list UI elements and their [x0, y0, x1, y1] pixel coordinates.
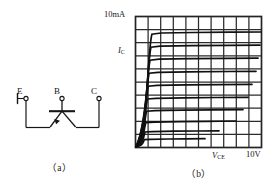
collector-terminal [76, 96, 101, 127]
transistor-collector-leg [62, 111, 76, 127]
emitter-socket-hole [24, 96, 28, 100]
y-axis-top-label: 10mA [104, 9, 125, 19]
emitter-terminal [18, 94, 51, 128]
base-socket-hole [60, 96, 64, 100]
terminal-label-e: E [17, 86, 23, 96]
figure-vector-art [0, 0, 280, 188]
base-terminal [60, 96, 64, 111]
panel-b-caption: （b） [186, 166, 211, 180]
y-axis-subscript: C [121, 49, 125, 55]
y-axis-label: IC [118, 45, 125, 55]
panel-b-display [136, 17, 262, 148]
terminal-label-c: C [91, 86, 97, 96]
x-axis-subscript: CE [217, 154, 225, 160]
x-axis-end-label: 10V [246, 149, 261, 159]
emitter-arrowhead-icon [54, 119, 60, 124]
panel-a-caption: （a） [47, 160, 72, 174]
transistor-emitter-leg [50, 111, 62, 127]
transistor-symbol [49, 111, 76, 127]
panel-a-circuit [18, 94, 102, 128]
collector-socket-hole [97, 96, 101, 100]
terminal-label-b: B [54, 86, 60, 96]
figure-root: E B C 10mA IC VCE 10V （a） （b） [0, 0, 280, 188]
x-axis-label: VCE [212, 150, 225, 160]
